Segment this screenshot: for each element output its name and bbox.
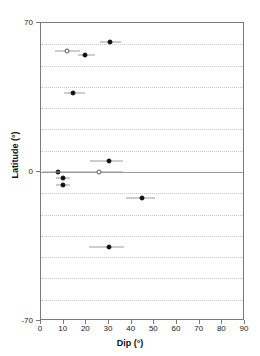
y-axis-tick-label: -70: [9, 316, 33, 325]
gridline: [41, 129, 243, 130]
scatter-chart-figure: Dip (°) Latitude (°) 0102030405060708090…: [0, 0, 260, 356]
data-point-open: [96, 170, 101, 175]
x-axis-title: Dip (°): [0, 338, 260, 348]
x-axis-tick-label: 80: [217, 324, 226, 333]
data-point-open: [65, 48, 70, 53]
y-axis-tick-label: 70: [9, 18, 33, 27]
y-axis-title: Latitude (°): [10, 110, 20, 200]
gridline: [41, 44, 243, 45]
x-axis-tick-label: 70: [194, 324, 203, 333]
data-point-filled: [108, 40, 113, 45]
data-point-filled: [60, 176, 65, 181]
gridline: [41, 278, 243, 279]
y-axis-tick: [36, 171, 40, 172]
data-point-filled: [107, 159, 112, 164]
gridline: [41, 87, 243, 88]
x-axis-tick-label: 50: [149, 324, 158, 333]
data-point-filled: [70, 91, 75, 96]
x-axis-tick-label: 0: [38, 324, 42, 333]
data-point-filled: [107, 244, 112, 249]
error-bar: [43, 172, 122, 173]
gridline: [41, 108, 243, 109]
x-axis-tick-label: 10: [58, 324, 67, 333]
x-axis-tick-label: 90: [240, 324, 249, 333]
x-axis-tick-label: 60: [172, 324, 181, 333]
x-axis-tick-label: 30: [104, 324, 113, 333]
y-axis-tick: [36, 320, 40, 321]
gridline: [41, 236, 243, 237]
x-axis-tick-label: 40: [126, 324, 135, 333]
gridline: [41, 215, 243, 216]
data-point-filled: [60, 182, 65, 187]
data-point-filled: [139, 195, 144, 200]
y-axis-tick-label: 0: [9, 167, 33, 176]
data-point-filled: [83, 52, 88, 57]
x-axis-tick-label: 20: [81, 324, 90, 333]
plot-area: [40, 22, 244, 320]
gridline: [41, 151, 243, 152]
gridline: [41, 66, 243, 67]
gridline: [41, 300, 243, 301]
y-axis-tick: [36, 22, 40, 23]
gridline: [41, 257, 243, 258]
